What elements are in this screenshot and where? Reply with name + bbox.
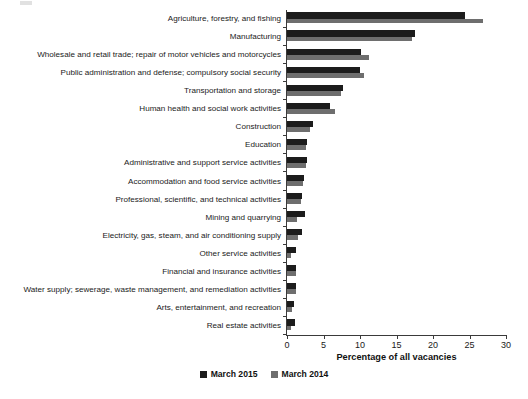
bar-march-2014 (287, 217, 297, 222)
category-label: Other service activities (200, 249, 281, 257)
bar-march-2014 (287, 19, 483, 24)
x-tick-label: 15 (391, 340, 401, 350)
bar-group (287, 173, 506, 191)
legend-swatch-icon (200, 371, 207, 378)
category-label: Real estate activities (207, 322, 281, 330)
bar-chart: Agriculture, forestry, and fishingManufa… (0, 0, 528, 399)
bar-march-2014 (287, 181, 303, 186)
category-label: Manufacturing (230, 33, 281, 41)
legend-label: March 2015 (211, 369, 258, 379)
bar-group (287, 209, 506, 227)
bar-march-2014 (287, 271, 296, 276)
chart-row: Accommodation and food service activitie… (287, 173, 506, 191)
bar-march-2014 (287, 145, 306, 150)
category-label: Transportation and storage (184, 87, 281, 95)
chart-row: Human health and social work activities (287, 100, 506, 118)
category-label: Arts, entertainment, and recreation (156, 304, 281, 312)
chart-row: Financial and insurance activities (287, 263, 506, 281)
x-tick-mark (470, 335, 471, 339)
x-tick-mark (506, 335, 507, 339)
bar-march-2014 (287, 37, 412, 42)
x-tick-label: 10 (355, 340, 365, 350)
bar-group (287, 227, 506, 245)
x-tick-mark (397, 335, 398, 339)
page-artifact (20, 1, 32, 5)
bar-group (287, 317, 506, 335)
chart-legend: March 2015March 2014 (0, 369, 528, 379)
category-label: Mining and quarrying (205, 213, 281, 221)
bar-march-2014 (287, 127, 310, 132)
legend-item[interactable]: March 2014 (271, 369, 329, 379)
bar-group (287, 299, 506, 317)
bar-group (287, 263, 506, 281)
plot-area: Agriculture, forestry, and fishingManufa… (287, 10, 506, 335)
bar-march-2014 (287, 307, 292, 312)
bar-march-2014 (287, 73, 364, 78)
bar-group (287, 64, 506, 82)
chart-row: Agriculture, forestry, and fishing (287, 10, 506, 28)
bar-march-2014 (287, 289, 296, 294)
category-label: Human health and social work activities (139, 105, 281, 113)
x-tick-mark (324, 335, 325, 339)
chart-row: Electricity, gas, steam, and air conditi… (287, 227, 506, 245)
legend-swatch-icon (271, 371, 278, 378)
category-label: Water supply; sewerage, waste management… (24, 286, 281, 294)
bar-group (287, 118, 506, 136)
bar-march-2014 (287, 235, 298, 240)
bar-group (287, 46, 506, 64)
bar-group (287, 136, 506, 154)
category-label: Financial and insurance activities (162, 268, 281, 276)
category-label: Accommodation and food service activitie… (128, 177, 281, 185)
x-tick-label: 25 (464, 340, 474, 350)
x-tick-label: 0 (284, 340, 289, 350)
chart-row: Arts, entertainment, and recreation (287, 299, 506, 317)
bar-group (287, 10, 506, 28)
category-label: Administrative and support service activ… (124, 159, 281, 167)
chart-row: Wholesale and retail trade; repair of mo… (287, 46, 506, 64)
chart-row: Manufacturing (287, 28, 506, 46)
chart-row: Construction (287, 118, 506, 136)
category-label: Education (245, 141, 281, 149)
chart-row: Transportation and storage (287, 82, 506, 100)
bar-group (287, 100, 506, 118)
bar-march-2014 (287, 55, 369, 60)
bar-march-2014 (287, 199, 301, 204)
chart-row: Other service activities (287, 245, 506, 263)
chart-row: Professional, scientific, and technical … (287, 191, 506, 209)
bar-group (287, 281, 506, 299)
chart-row: Administrative and support service activ… (287, 154, 506, 172)
x-tick-label: 30 (501, 340, 511, 350)
category-label: Electricity, gas, steam, and air conditi… (103, 231, 281, 239)
x-axis-label: Percentage of all vacancies (287, 352, 506, 362)
bar-march-2014 (287, 253, 291, 258)
x-tick-label: 20 (428, 340, 438, 350)
bar-group (287, 245, 506, 263)
legend-item[interactable]: March 2015 (200, 369, 258, 379)
bar-group (287, 28, 506, 46)
legend-label: March 2014 (282, 369, 329, 379)
category-label: Public administration and defense; compu… (61, 69, 281, 77)
x-tick-mark (287, 335, 288, 339)
chart-row: Real estate activities (287, 317, 506, 335)
bar-march-2014 (287, 91, 341, 96)
x-tick-label: 5 (321, 340, 326, 350)
category-label: Construction (236, 123, 281, 131)
bar-group (287, 82, 506, 100)
category-label: Agriculture, forestry, and fishing (168, 15, 281, 23)
bar-march-2014 (287, 163, 306, 168)
chart-row: Mining and quarrying (287, 209, 506, 227)
category-label: Professional, scientific, and technical … (115, 195, 281, 203)
bar-march-2014 (287, 326, 291, 331)
bar-march-2014 (287, 109, 335, 114)
chart-row: Water supply; sewerage, waste management… (287, 281, 506, 299)
bar-group (287, 191, 506, 209)
bar-group (287, 154, 506, 172)
x-tick-mark (360, 335, 361, 339)
category-label: Wholesale and retail trade; repair of mo… (37, 51, 281, 59)
chart-row: Public administration and defense; compu… (287, 64, 506, 82)
chart-row: Education (287, 136, 506, 154)
x-tick-mark (433, 335, 434, 339)
